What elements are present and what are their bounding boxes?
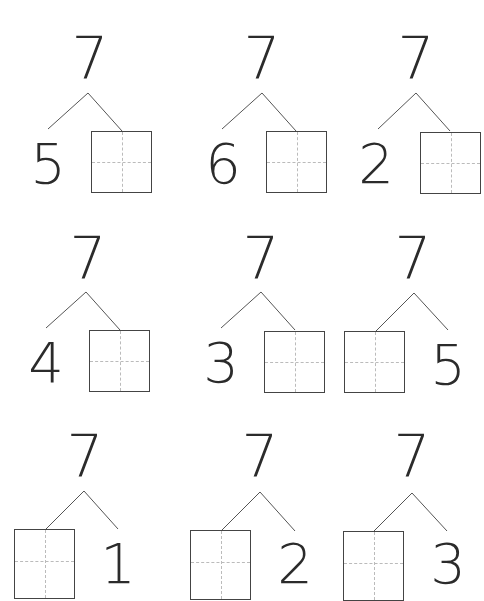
answer-box[interactable] bbox=[344, 331, 405, 393]
known-part: 4 bbox=[26, 335, 66, 391]
known-part: 5 bbox=[28, 136, 68, 192]
answer-box[interactable] bbox=[89, 330, 150, 392]
whole-number: 7 bbox=[240, 428, 280, 486]
answer-box[interactable] bbox=[264, 331, 325, 393]
answer-box[interactable] bbox=[343, 531, 404, 601]
whole-number: 7 bbox=[65, 428, 105, 486]
answer-box[interactable] bbox=[190, 530, 251, 600]
known-part: 1 bbox=[98, 536, 138, 592]
answer-box[interactable] bbox=[14, 529, 75, 599]
known-part: 3 bbox=[428, 536, 468, 592]
known-part: 2 bbox=[275, 536, 315, 592]
whole-number: 7 bbox=[242, 30, 282, 88]
whole-number: 7 bbox=[68, 230, 108, 288]
whole-number: 7 bbox=[70, 30, 110, 88]
answer-box[interactable] bbox=[91, 131, 152, 193]
whole-number: 7 bbox=[393, 230, 433, 288]
answer-box[interactable] bbox=[266, 131, 327, 193]
known-part: 2 bbox=[356, 136, 396, 192]
known-part: 5 bbox=[428, 337, 468, 393]
answer-box[interactable] bbox=[420, 132, 481, 194]
known-part: 6 bbox=[203, 136, 243, 192]
whole-number: 7 bbox=[392, 428, 432, 486]
whole-number: 7 bbox=[396, 30, 436, 88]
whole-number: 7 bbox=[241, 230, 281, 288]
known-part: 3 bbox=[201, 335, 241, 391]
